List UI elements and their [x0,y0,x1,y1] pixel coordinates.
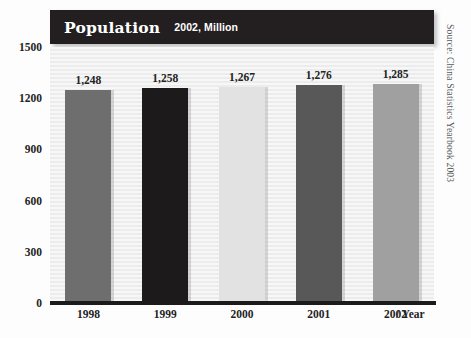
y-axis-tick-label: 600 [25,195,42,207]
bar-2001[interactable] [296,85,342,303]
y-axis-tick-label: 900 [25,143,42,155]
y-axis-tick-label: 1200 [19,92,42,104]
x-axis-tick-label: 2002 [361,308,431,320]
x-axis-baseline [50,301,436,305]
bar-2002[interactable] [373,84,419,303]
source-note: Source: China Statistics Yearbook 2003 [441,24,455,234]
bar-value-label: 1,258 [130,72,200,84]
x-axis-tick-label: 2000 [207,308,277,320]
x-axis-tick-label: 2001 [284,308,354,320]
bar-1999[interactable] [142,88,188,303]
page-title: Population [64,18,160,37]
bar-value-label: 1,276 [284,69,354,81]
x-axis-tick-label: 1999 [130,308,200,320]
bar-2000[interactable] [219,87,265,303]
bar-value-label: 1,285 [361,68,431,80]
population-bar-chart: Population 2002, Million 150012009006003… [0,0,471,338]
chart-subtitle: 2002, Million [174,21,238,33]
bar-1998[interactable] [65,90,111,303]
y-axis-tick-label: 300 [25,246,42,258]
x-axis-tick-label: 1998 [53,308,123,320]
bar-value-label: 1,267 [207,71,277,83]
y-axis: 150012009006003000 [0,47,46,303]
y-axis-tick-label: 1500 [19,41,42,53]
chart-title-bar: Population 2002, Million [50,10,434,44]
bar-value-label: 1,248 [53,74,123,86]
x-axis: / Year 19981999200020012002 [0,306,471,328]
